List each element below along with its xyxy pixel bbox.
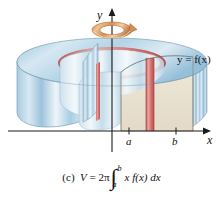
y-axis-label: y <box>97 9 102 21</box>
y-axis-arrowhead <box>109 8 116 16</box>
caption-part-label: (c) <box>62 171 74 183</box>
x-axis-label: x <box>207 134 212 146</box>
caption-volume-symbol: V <box>80 171 87 183</box>
curve-label: y = f(x) <box>177 54 211 65</box>
rotation-arrow-ring <box>92 22 137 38</box>
figure-caption: (c) V = 2π ∫ b a x f(x) dx <box>0 167 223 189</box>
caption-equals: = <box>90 171 96 183</box>
tick-label-b: b <box>172 136 178 147</box>
caption-integrand: x f(x) dx <box>125 171 161 183</box>
caption-integral: ∫ b a <box>110 167 123 189</box>
shell-strip-right <box>146 58 154 131</box>
integral-lower-limit: a <box>113 180 117 189</box>
shell-strip-left <box>96 62 100 121</box>
integral-upper-limit: b <box>118 164 122 173</box>
caption-coefficient: 2π <box>99 171 110 183</box>
tick-label-a: a <box>126 136 132 147</box>
